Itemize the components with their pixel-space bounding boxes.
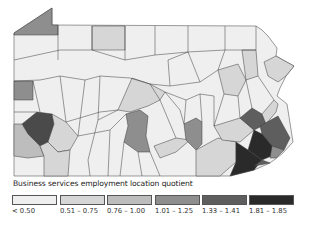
pennsylvania-county-map	[0, 0, 310, 180]
legend-label: 0.76 – 1.00	[107, 207, 153, 215]
legend-title: Business services employment location qu…	[13, 179, 193, 188]
legend-item-4: 1.33 – 1.41	[202, 195, 248, 215]
legend-item-0: < 0.50	[12, 195, 58, 215]
legend-swatch	[202, 195, 247, 205]
legend-label: 1.81 – 1.85	[249, 207, 295, 215]
legend-swatch	[12, 195, 57, 205]
legend-label: < 0.50	[12, 207, 58, 215]
legend-label: 0.51 – 0.75	[60, 207, 106, 215]
legend-item-3: 1.01 – 1.25	[155, 195, 201, 215]
county-erie	[14, 8, 58, 35]
county-mercer	[14, 81, 33, 100]
legend-label: 1.33 – 1.41	[202, 207, 248, 215]
legend-item-5: 1.81 – 1.85	[249, 195, 295, 215]
legend: < 0.50 0.51 – 0.75 0.76 – 1.00 1.01 – 1.…	[12, 195, 302, 223]
legend-item-1: 0.51 – 0.75	[60, 195, 106, 215]
legend-swatch	[249, 195, 294, 205]
legend-item-2: 0.76 – 1.00	[107, 195, 153, 215]
legend-swatch	[107, 195, 152, 205]
legend-swatch	[60, 195, 105, 205]
legend-swatch	[155, 195, 200, 205]
county-mckean	[92, 26, 125, 50]
legend-label: 1.01 – 1.25	[155, 207, 201, 215]
